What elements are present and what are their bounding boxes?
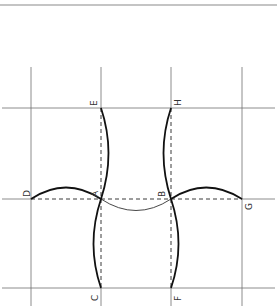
grid-horizontal-lines bbox=[2, 108, 275, 288]
curve-b-g bbox=[171, 188, 242, 200]
label-b: B bbox=[157, 191, 167, 197]
label-d: D bbox=[22, 190, 32, 197]
dashed-construction-lines bbox=[31, 108, 242, 288]
grid-vertical-lines bbox=[31, 67, 242, 306]
label-c: C bbox=[90, 295, 100, 301]
label-g: G bbox=[244, 203, 254, 210]
label-a: A bbox=[90, 190, 100, 197]
arc-a-to-b bbox=[101, 199, 171, 211]
curve-e-a bbox=[101, 108, 109, 199]
label-h: H bbox=[173, 99, 183, 106]
label-f: F bbox=[173, 296, 183, 301]
curve-b-f bbox=[171, 199, 179, 288]
diagram-canvas: E H D A B G C F bbox=[0, 0, 277, 306]
thick-curves bbox=[31, 108, 242, 288]
construction-diagram: E H D A B G C F bbox=[0, 0, 277, 306]
curve-h-b bbox=[164, 108, 172, 199]
label-e: E bbox=[89, 100, 99, 106]
curve-a-c bbox=[94, 199, 102, 288]
